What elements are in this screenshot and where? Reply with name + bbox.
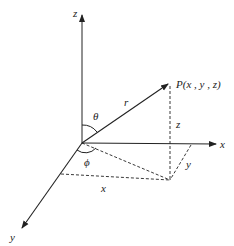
theta-arc bbox=[82, 125, 97, 132]
y-axis-label: y bbox=[9, 231, 15, 243]
phi-arc bbox=[77, 148, 96, 153]
y-dimension-label: y bbox=[185, 158, 191, 170]
y-axis bbox=[22, 143, 82, 228]
x-dimension-label: x bbox=[100, 182, 106, 194]
point-label: P(x , y , z) bbox=[175, 78, 221, 91]
phi-label: ϕ bbox=[84, 156, 90, 168]
x-axis-label: x bbox=[219, 138, 225, 150]
x-axis bbox=[82, 143, 216, 144]
spherical-coordinates-diagram: z x y P(x , y , z) r θ ϕ z y x bbox=[0, 0, 234, 246]
theta-label: θ bbox=[93, 110, 99, 122]
r-label: r bbox=[124, 96, 129, 108]
z-axis-label: z bbox=[72, 7, 78, 19]
z-dimension-label: z bbox=[175, 118, 181, 130]
